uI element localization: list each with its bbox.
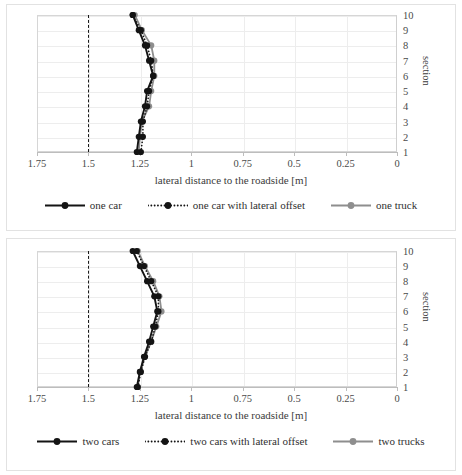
- legend-marker-icon: [37, 436, 77, 447]
- data-point-marker: [134, 149, 140, 155]
- data-point-marker: [142, 103, 148, 109]
- series-line: [133, 251, 158, 387]
- data-point-marker: [150, 324, 156, 330]
- legend-item-one-car-with-lateral-offset[interactable]: one car with lateral offset: [148, 199, 305, 211]
- chart-panel-bottom: 1.751.51.2510.750.50.250 12345678910 lat…: [6, 238, 456, 471]
- data-point-marker: [150, 73, 156, 79]
- data-point-marker: [146, 339, 152, 345]
- legend-top: one carone car with lateral offsetone tr…: [7, 199, 455, 211]
- data-point-marker: [151, 293, 157, 299]
- data-point-marker: [154, 308, 160, 314]
- legend-marker-icon: [45, 200, 85, 211]
- legend-item-one-truck[interactable]: one truck: [331, 199, 417, 211]
- legend-label: two cars with lateral offset: [190, 435, 307, 447]
- legend-marker-icon: [331, 200, 371, 211]
- legend-marker-icon: [148, 200, 188, 211]
- data-point-marker: [146, 58, 152, 64]
- data-point-marker: [137, 263, 143, 269]
- data-point-marker: [141, 354, 147, 360]
- data-point-marker: [134, 384, 140, 390]
- legend-label: two trucks: [378, 435, 424, 447]
- data-point-marker: [137, 369, 143, 375]
- plot-wrapper-top: 1.751.51.2510.750.50.250 12345678910 lat…: [7, 5, 455, 230]
- data-point-marker: [130, 248, 136, 254]
- data-point-marker: [144, 278, 150, 284]
- data-point-marker: [142, 42, 148, 48]
- legend-label: one car: [90, 199, 122, 211]
- legend-label: two cars: [82, 435, 119, 447]
- data-point-marker: [136, 27, 142, 33]
- legend-item-two-cars-with-lateral-offset[interactable]: two cars with lateral offset: [145, 435, 307, 447]
- legend-item-two-cars[interactable]: two cars: [37, 435, 119, 447]
- plot-wrapper-bottom: 1.751.51.2510.750.50.250 12345678910 lat…: [7, 239, 455, 470]
- legend-marker-icon: [333, 436, 373, 447]
- chart-panel-top: 1.751.51.2510.750.50.250 12345678910 lat…: [6, 4, 456, 231]
- data-point-marker: [136, 134, 142, 140]
- legend-label: one car with lateral offset: [193, 199, 305, 211]
- data-point-marker: [138, 119, 144, 125]
- legend-label: one truck: [376, 199, 417, 211]
- data-point-marker: [130, 12, 136, 18]
- legend-item-two-trucks[interactable]: two trucks: [333, 435, 424, 447]
- legend-marker-icon: [145, 436, 185, 447]
- data-point-marker: [144, 88, 150, 94]
- legend-bottom: two carstwo cars with lateral offsettwo …: [7, 435, 455, 447]
- legend-item-one-car[interactable]: one car: [45, 199, 122, 211]
